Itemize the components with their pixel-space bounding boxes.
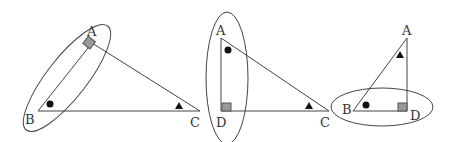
figure-triangle-abc: A B C — [11, 14, 200, 142]
vertex-label-a: A — [215, 23, 226, 38]
right-angle-square-icon — [398, 103, 407, 111]
vertex-label-a: A — [86, 24, 97, 39]
triangle-abd-outline — [353, 38, 407, 111]
right-angle-square-icon — [222, 103, 231, 111]
vertex-label-d: D — [410, 108, 420, 123]
angle-dot-icon — [225, 47, 232, 54]
diagram-canvas: A B C A D C A B D — [0, 0, 451, 142]
vertex-label-d: D — [216, 115, 226, 130]
figure-triangle-adc: A D C — [206, 12, 330, 142]
triangle-adc-outline — [221, 38, 329, 111]
angle-triangle-icon — [175, 102, 183, 109]
figure-triangle-abd: A B D — [331, 23, 433, 126]
angle-triangle-icon — [305, 102, 313, 109]
vertex-label-c: C — [190, 115, 200, 130]
vertex-label-b: B — [25, 112, 35, 127]
vertex-label-a: A — [401, 23, 412, 38]
angle-dot-icon — [47, 101, 54, 108]
angle-dot-icon — [363, 102, 370, 109]
vertex-label-c: C — [320, 115, 330, 130]
vertex-label-b: B — [342, 102, 352, 117]
highlight-ellipse-ad — [206, 12, 248, 142]
